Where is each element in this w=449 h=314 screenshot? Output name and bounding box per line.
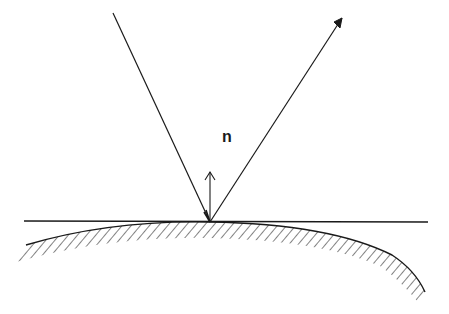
surface-hatching	[16, 222, 425, 302]
normal-label: n	[222, 128, 232, 145]
reflection-diagram: n	[0, 0, 449, 314]
tangent-line	[24, 221, 428, 222]
reflected-arrowhead-icon	[334, 18, 342, 28]
reflected-ray	[210, 18, 342, 222]
incident-ray	[113, 13, 210, 222]
